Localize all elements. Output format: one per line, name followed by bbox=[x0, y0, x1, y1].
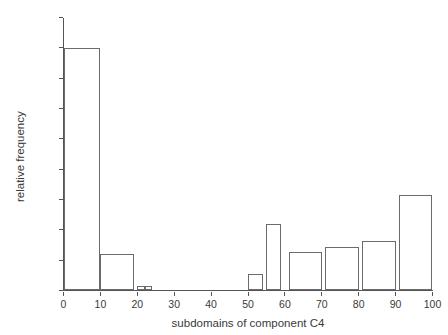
x-tick-mark bbox=[137, 292, 138, 296]
y-tick-mark bbox=[59, 169, 63, 170]
x-tick-label: 40 bbox=[191, 299, 231, 310]
x-tick-mark bbox=[395, 292, 396, 296]
x-tick-mark bbox=[248, 292, 249, 296]
x-tick-label: 80 bbox=[339, 299, 379, 310]
x-tick-mark bbox=[63, 292, 64, 296]
x-tick-mark bbox=[100, 292, 101, 296]
x-tick-label: 50 bbox=[228, 299, 268, 310]
histogram-bar bbox=[64, 48, 101, 291]
x-tick-label: 0 bbox=[44, 299, 84, 310]
histogram-bar bbox=[362, 241, 395, 291]
histogram-bar bbox=[325, 247, 358, 291]
x-tick-mark bbox=[284, 292, 285, 296]
histogram-bar bbox=[137, 286, 144, 290]
x-tick-label: 70 bbox=[302, 299, 342, 310]
x-tick-mark bbox=[432, 292, 433, 296]
histogram-bar bbox=[145, 286, 152, 291]
y-tick-mark bbox=[59, 108, 63, 109]
y-tick-mark bbox=[59, 17, 63, 18]
histogram-bar bbox=[399, 195, 432, 290]
x-tick-label: 30 bbox=[154, 299, 194, 310]
histogram-bar bbox=[289, 252, 322, 290]
x-tick-mark bbox=[321, 292, 322, 296]
histogram-bar bbox=[248, 274, 263, 290]
x-tick-label: 100 bbox=[413, 299, 448, 310]
histogram-bar bbox=[100, 254, 133, 290]
x-tick-label: 60 bbox=[265, 299, 305, 310]
y-tick-mark bbox=[59, 47, 63, 48]
y-tick-mark bbox=[59, 78, 63, 79]
relative-frequency-histogram: 00.050.10.150.20.250.30.350.40.45 010203… bbox=[0, 0, 448, 335]
x-tick-label: 20 bbox=[117, 299, 157, 310]
x-tick-label: 10 bbox=[80, 299, 120, 310]
y-tick-mark bbox=[59, 229, 63, 230]
x-tick-mark bbox=[358, 292, 359, 296]
y-tick-mark bbox=[59, 138, 63, 139]
x-axis-title: subdomains of component C4 bbox=[64, 317, 433, 329]
y-tick-mark bbox=[59, 199, 63, 200]
y-tick-mark bbox=[59, 260, 63, 261]
x-tick-mark bbox=[211, 292, 212, 296]
histogram-bar bbox=[266, 224, 281, 291]
y-axis-title: relative frequency bbox=[14, 111, 26, 202]
x-tick-mark bbox=[174, 292, 175, 296]
x-tick-label: 90 bbox=[376, 299, 416, 310]
